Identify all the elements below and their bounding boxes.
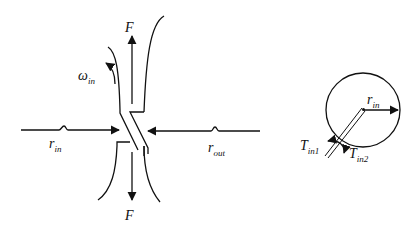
rod-line-2 xyxy=(328,111,365,158)
omega-in-label: ωin xyxy=(78,68,95,86)
radius-label: rin xyxy=(367,92,380,110)
force-bottom-label: F xyxy=(124,208,134,223)
left-upper-wall xyxy=(108,47,120,110)
joint-lower-left xyxy=(117,142,130,146)
mechanics-diagram: F F ωin rin rout rin Tin1 Tin2 xyxy=(0,0,417,229)
force-top-label: F xyxy=(124,20,134,35)
left-figure: F F ωin rin rout xyxy=(21,16,260,223)
joint-upper-left xyxy=(120,110,138,150)
right-lower-wall xyxy=(144,146,160,202)
left-lower-wall xyxy=(98,146,117,200)
r-out-label: rout xyxy=(208,140,225,158)
inner-resistance-line xyxy=(21,126,119,130)
rod-pivot xyxy=(362,108,365,111)
torque-2-label: Tin2 xyxy=(349,146,369,164)
torque-1-label: Tin1 xyxy=(300,138,319,156)
r-in-label: rin xyxy=(49,136,62,154)
right-upper-wall xyxy=(144,16,164,112)
torque-2-arrow xyxy=(341,144,344,153)
right-figure: rin Tin1 Tin2 xyxy=(300,73,400,164)
outer-resistance-line xyxy=(148,127,260,131)
angular-velocity-arrow xyxy=(106,63,115,84)
joint-upper-right xyxy=(130,112,148,154)
